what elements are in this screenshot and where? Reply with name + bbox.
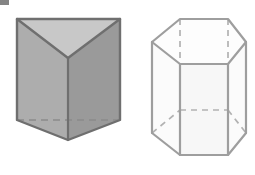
figure-canvas [0,0,255,175]
hexagonal-prism [152,19,246,155]
triangular-prism [17,19,120,140]
scan-artifact [0,0,9,5]
prisms-illustration [0,0,255,175]
